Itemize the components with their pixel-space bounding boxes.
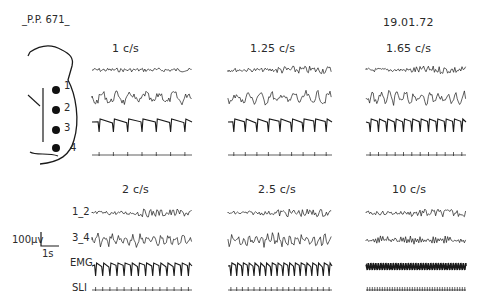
emg-trace — [92, 263, 192, 276]
channel-3-4-trace — [228, 233, 331, 248]
channel-1-2-trace — [228, 209, 331, 217]
channel-3-4-trace — [366, 236, 466, 244]
sli-trace — [228, 152, 332, 156]
emg-trace — [92, 119, 192, 132]
channel-3-4-trace — [92, 91, 192, 105]
channel-1-2-trace — [366, 66, 466, 74]
channel-3-4-trace — [92, 233, 192, 247]
sli-trace — [92, 152, 192, 156]
sli-trace — [366, 287, 466, 291]
sli-trace — [92, 287, 192, 291]
sli-trace — [228, 287, 332, 291]
emg-trace — [366, 263, 466, 270]
channel-3-4-trace — [228, 90, 331, 105]
channel-1-2-trace — [92, 68, 192, 72]
channel-3-4-trace — [366, 90, 466, 105]
eeg-traces — [0, 0, 482, 308]
channel-1-2-trace — [92, 209, 192, 217]
emg-trace — [228, 119, 332, 132]
sli-trace — [366, 152, 466, 156]
channel-1-2-trace — [366, 209, 466, 217]
emg-trace — [228, 263, 332, 276]
channel-1-2-trace — [228, 66, 331, 73]
emg-trace — [366, 119, 466, 132]
